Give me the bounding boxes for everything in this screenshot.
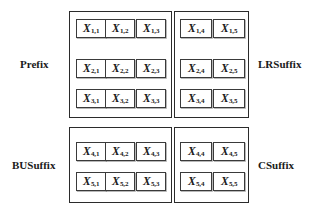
- cell-subscript: 4,2: [120, 151, 128, 158]
- cell-label: X: [112, 23, 120, 35]
- cell-x-2-4: X2,4: [180, 59, 212, 78]
- cell-x-5-2: X5,2: [105, 172, 135, 191]
- cell-label: X: [112, 176, 120, 188]
- cell-label: X: [188, 146, 196, 158]
- cell-label: X: [112, 93, 120, 105]
- label-prefix: Prefix: [20, 58, 49, 70]
- cell-x-5-5: X5,5: [213, 172, 245, 191]
- cell-x-2-3: X2,3: [136, 59, 166, 78]
- cell-x-3-2: X3,2: [105, 89, 135, 108]
- cell-subscript: 2,3: [151, 68, 159, 75]
- cell-subscript: 3,1: [91, 98, 99, 105]
- cell-label: X: [188, 93, 196, 105]
- cell-label: X: [221, 176, 229, 188]
- cell-subscript: 3,3: [151, 98, 159, 105]
- cell-label: X: [143, 176, 151, 188]
- cell-x-4-4: X4,4: [180, 142, 212, 161]
- cell-label: X: [221, 93, 229, 105]
- cell-x-4-1: X4,1: [76, 142, 106, 161]
- cell-subscript: 5,2: [120, 181, 128, 188]
- cell-label: X: [221, 146, 229, 158]
- cell-subscript: 1,4: [196, 28, 204, 35]
- cell-subscript: 2,4: [196, 68, 204, 75]
- cell-x-1-5: X1,5: [213, 19, 245, 38]
- cell-subscript: 2,2: [120, 68, 128, 75]
- cell-x-5-4: X5,4: [180, 172, 212, 191]
- cell-label: X: [112, 146, 120, 158]
- cell-label: X: [143, 23, 151, 35]
- cell-subscript: 5,1: [91, 181, 99, 188]
- cell-subscript: 5,3: [151, 181, 159, 188]
- cell-label: X: [83, 146, 91, 158]
- cell-subscript: 4,5: [229, 151, 237, 158]
- cell-subscript: 3,2: [120, 98, 128, 105]
- cell-x-5-1: X5,1: [76, 172, 106, 191]
- cell-label: X: [143, 93, 151, 105]
- cell-label: X: [221, 63, 229, 75]
- label-busuffix: BUSuffix: [12, 159, 55, 171]
- cell-subscript: 4,3: [151, 151, 159, 158]
- cell-label: X: [83, 63, 91, 75]
- cell-x-5-3: X5,3: [136, 172, 166, 191]
- matrix-partition-figure: X1,1 X1,2 X1,3 X2,1 X2,2 X2,3 X3,1 X3,2 …: [0, 0, 318, 213]
- cell-x-3-4: X3,4: [180, 89, 212, 108]
- cell-label: X: [143, 146, 151, 158]
- cell-x-2-2: X2,2: [105, 59, 135, 78]
- cell-x-1-3: X1,3: [136, 19, 166, 38]
- cell-subscript: 5,5: [229, 181, 237, 188]
- cell-subscript: 5,4: [196, 181, 204, 188]
- group-lrsuffix: X1,4 X1,5 X2,4 X2,5 X3,4 X3,5: [174, 11, 249, 118]
- cell-x-1-4: X1,4: [180, 19, 212, 38]
- cell-subscript: 4,1: [91, 151, 99, 158]
- label-lrsuffix: LRSuffix: [258, 58, 301, 70]
- group-busuffix: X4,1 X4,2 X4,3 X5,1 X5,2 X5,3: [69, 127, 172, 203]
- cell-x-3-3: X3,3: [136, 89, 166, 108]
- cell-label: X: [143, 63, 151, 75]
- cell-subscript: 1,1: [91, 28, 99, 35]
- cell-x-4-5: X4,5: [213, 142, 245, 161]
- cell-x-4-2: X4,2: [105, 142, 135, 161]
- cell-subscript: 2,1: [91, 68, 99, 75]
- cell-label: X: [188, 176, 196, 188]
- cell-x-1-1: X1,1: [76, 19, 106, 38]
- cell-subscript: 3,5: [229, 98, 237, 105]
- cell-label: X: [83, 93, 91, 105]
- cell-label: X: [112, 63, 120, 75]
- cell-label: X: [221, 23, 229, 35]
- cell-label: X: [83, 23, 91, 35]
- cell-x-4-3: X4,3: [136, 142, 166, 161]
- cell-x-2-5: X2,5: [213, 59, 245, 78]
- cell-subscript: 3,4: [196, 98, 204, 105]
- cell-x-3-1: X3,1: [76, 89, 106, 108]
- cell-x-1-2: X1,2: [105, 19, 135, 38]
- cell-subscript: 1,5: [229, 28, 237, 35]
- cell-subscript: 1,2: [120, 28, 128, 35]
- cell-subscript: 4,4: [196, 151, 204, 158]
- label-csuffix: CSuffix: [258, 159, 294, 171]
- cell-subscript: 1,3: [151, 28, 159, 35]
- group-csuffix: X4,4 X4,5 X5,4 X5,5: [174, 127, 249, 203]
- cell-x-3-5: X3,5: [213, 89, 245, 108]
- cell-label: X: [188, 23, 196, 35]
- cell-subscript: 2,5: [229, 68, 237, 75]
- cell-x-2-1: X2,1: [76, 59, 106, 78]
- group-prefix: X1,1 X1,2 X1,3 X2,1 X2,2 X2,3 X3,1 X3,2 …: [69, 11, 172, 118]
- cell-label: X: [83, 176, 91, 188]
- cell-label: X: [188, 63, 196, 75]
